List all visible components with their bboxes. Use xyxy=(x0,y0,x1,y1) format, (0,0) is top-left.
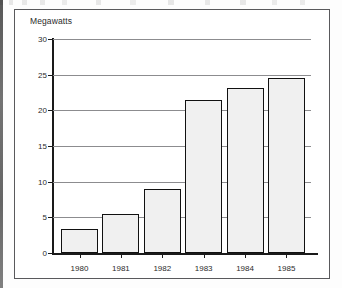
y-tick-label-10: 10 xyxy=(38,177,47,186)
bar-1980[interactable] xyxy=(61,229,98,253)
bar-slot-1984: 1984 xyxy=(227,39,264,253)
y-tick-mark-0 xyxy=(48,253,53,254)
x-tick-mark-1983 xyxy=(204,253,205,258)
bar-slot-1981: 1981 xyxy=(102,39,139,253)
bar-1984[interactable] xyxy=(227,88,264,253)
bar-slot-1985: 1985 xyxy=(268,39,305,253)
y-tick-label-20: 20 xyxy=(38,106,47,115)
y-tick-label-25: 25 xyxy=(38,70,47,79)
bar-1983[interactable] xyxy=(185,100,222,253)
bar-1982[interactable] xyxy=(144,189,181,253)
x-tick-label-1983: 1983 xyxy=(195,264,213,273)
y-tick-label-5: 5 xyxy=(43,213,47,222)
plot-area: 051015202530 198019811982198319841985 xyxy=(53,39,311,253)
bar-slot-1982: 1982 xyxy=(144,39,181,253)
x-tick-mark-1981 xyxy=(121,253,122,258)
x-tick-mark-1980 xyxy=(80,253,81,258)
x-tick-label-1984: 1984 xyxy=(236,264,254,273)
bar-slot-1983: 1983 xyxy=(185,39,222,253)
x-tick-mark-1984 xyxy=(245,253,246,258)
x-tick-label-1981: 1981 xyxy=(112,264,130,273)
scan-artifact-top-edge xyxy=(0,0,342,5)
bar-1981[interactable] xyxy=(102,214,139,253)
y-tick-label-15: 15 xyxy=(38,142,47,151)
gridline-0: 0 xyxy=(53,253,311,254)
bar-slot-1980: 1980 xyxy=(61,39,98,253)
x-tick-label-1980: 1980 xyxy=(71,264,89,273)
y-axis-title: Megawatts xyxy=(30,16,72,26)
y-tick-label-0: 0 xyxy=(43,249,47,258)
scan-artifact-left-edge xyxy=(0,0,3,288)
x-tick-label-1982: 1982 xyxy=(153,264,171,273)
x-tick-mark-1985 xyxy=(286,253,287,258)
bars-group: 198019811982198319841985 xyxy=(53,39,311,253)
x-tick-label-1985: 1985 xyxy=(278,264,296,273)
x-tick-mark-1982 xyxy=(162,253,163,258)
y-tick-label-30: 30 xyxy=(38,35,47,44)
chart-frame: Megawatts 051015202530 19801981198219831… xyxy=(14,9,330,279)
scanned-page: Megawatts 051015202530 19801981198219831… xyxy=(0,0,342,288)
bar-1985[interactable] xyxy=(268,78,305,253)
